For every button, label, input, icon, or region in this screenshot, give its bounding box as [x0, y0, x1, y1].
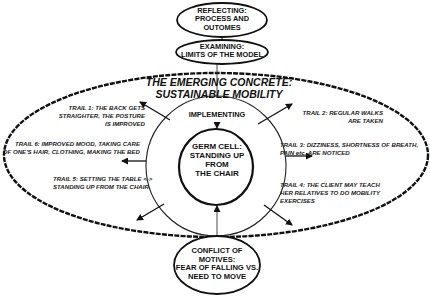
trail-6-text: TRAIL 6: IMPROVED MOOD, TAKING CARE OF O… [3, 140, 140, 156]
trail-4-text: TRAIL 4: THE CLIENT MAY TEACH HER RELATI… [280, 181, 380, 206]
trail-5-arrow [137, 204, 164, 220]
outer-title: THE EMERGING CONCRETE: SUSTAINABLE MOBIL… [140, 77, 298, 100]
germ-cell: GERM CELL: STANDING UP FROM THE CHAIR [184, 143, 250, 179]
trail-5-text: TRAIL 5: SETTING THE TABLE <-> STANDING … [53, 175, 152, 191]
conflict-node: CONFLICT OF MOTIVES: FEAR OF FALLING VS.… [175, 247, 259, 281]
trail-1-text: TRAIL 1: THE BACK GETS STRAIGHTER, THE P… [59, 104, 145, 129]
reflecting-node: REFLECTING: PROCESS AND OUTOMES [182, 7, 262, 32]
trail-3-text: TRAIL 3: DIZZINESS, SHORTNESS OF BREATH,… [280, 141, 418, 157]
trail-4-arrow [264, 205, 292, 225]
implementing-label: IMPLEMENTING [180, 111, 254, 119]
trail-2-text: TRAIL 2: REGULAR WALKS ARE TAKEN [303, 109, 383, 125]
examining-node: EXAMINING: LIMITS OF THE MODEL [175, 43, 269, 60]
